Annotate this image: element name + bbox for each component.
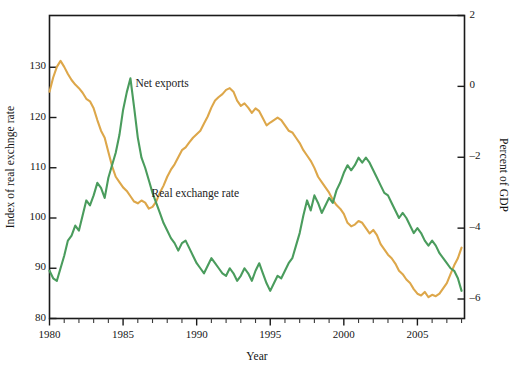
series-line-2	[50, 78, 462, 291]
y-right-tick-label: –2	[470, 149, 502, 161]
series-annotation-2: Real exchange rate	[152, 187, 292, 199]
x-major-tick-label: 1980	[26, 328, 74, 340]
x-major-tick-label: 2005	[393, 328, 441, 340]
y-left-tick-label: 90	[10, 260, 46, 272]
series-lines	[50, 61, 462, 297]
y-right-tick-label: –4	[470, 220, 502, 232]
y-left-tick-label: 110	[10, 160, 46, 172]
y-left-tick-label: 80	[10, 311, 46, 323]
series-annotation-1: Net exports	[135, 77, 275, 89]
y-right-tick-label: –6	[470, 291, 502, 303]
y-left-tick-label: 130	[10, 59, 46, 71]
x-major-tick-label: 1985	[99, 328, 147, 340]
y-left-tick-label: 120	[10, 110, 46, 122]
figure-container: Index of real exchnge rate Percent of GD…	[0, 0, 514, 371]
series-line-1	[50, 61, 462, 297]
x-major-tick-label: 1995	[246, 328, 294, 340]
x-major-tick-label: 2000	[320, 328, 368, 340]
y-right-tick-label: 0	[470, 78, 502, 90]
y-left-tick-label: 100	[10, 210, 46, 222]
x-major-tick-label: 1990	[173, 328, 221, 340]
y-right-tick-label: 2	[470, 8, 502, 20]
x-axis-major-ticks	[50, 319, 418, 326]
line-chart-plot	[0, 0, 514, 371]
